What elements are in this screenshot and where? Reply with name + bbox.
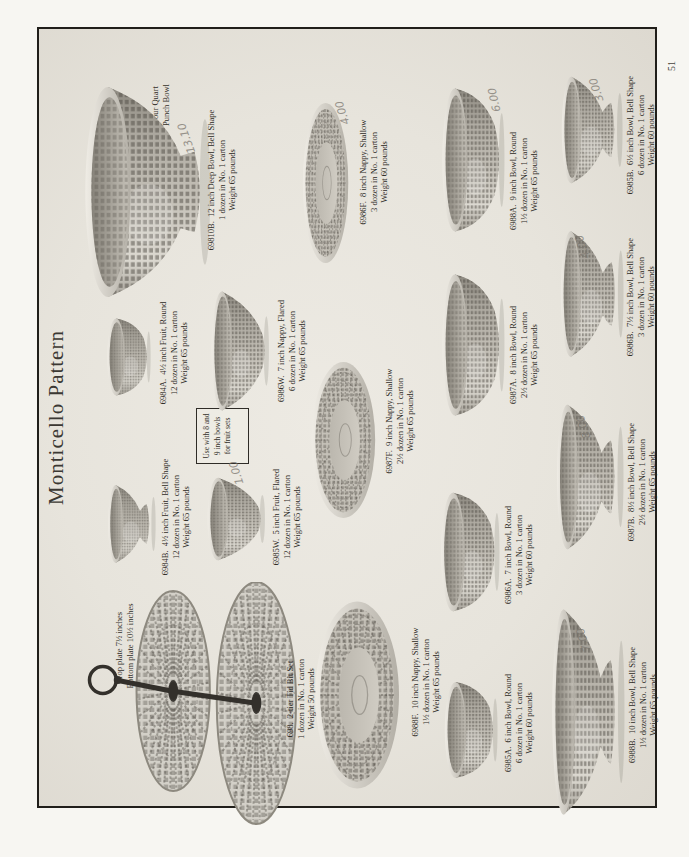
item-6986A-image bbox=[438, 489, 500, 615]
caption-line: 69810B. 12 inch Deep Bowl, Bell Shape bbox=[206, 95, 217, 265]
caption-line: 6985B. 6½ inch Bowl, Bell Shape bbox=[625, 50, 636, 220]
screenshot-canvas: Monticello Pattern 51 Top plate 7½ inche… bbox=[0, 0, 689, 857]
caption-line: 6986A. 7 inch Bowl, Round bbox=[503, 470, 514, 640]
item-6988A-caption: 6988A. 9 inch Bowl, Round1½ dozen in No.… bbox=[508, 96, 540, 266]
caption-line: Weight 65 pounds bbox=[648, 620, 659, 790]
caption-line: 6988B. 10 inch Bowl, Bell Shape bbox=[627, 620, 638, 790]
item-6984B-image bbox=[106, 483, 156, 565]
item-6987F-caption: 6987F. 9 inch Nappy, Shallow2½ dozen in … bbox=[384, 336, 416, 506]
item-6986W-caption: 6986W. 7 inch Nappy, Flared6 dozen in No… bbox=[276, 266, 308, 436]
item-6986A-caption: 6986A. 7 inch Bowl, Round3 dozen in No. … bbox=[503, 470, 535, 640]
item-6984A-caption: 6984A. 4½ inch Fruit, Round12 dozen in N… bbox=[158, 268, 190, 438]
caption-line: 1½ dozen in No. 1 carton bbox=[638, 620, 649, 790]
caption-line: 6985W. 5 inch Fruit, Flared bbox=[271, 432, 282, 602]
catalog-page: Monticello Pattern 51 Top plate 7½ inche… bbox=[0, 0, 689, 857]
item-6987F-image bbox=[309, 359, 379, 521]
caption-line: Weight 65 pounds bbox=[179, 268, 190, 438]
caption-line: 2½ dozen in No. 1 carton bbox=[519, 270, 530, 440]
caption-line: 12 dozen in No. 1 carton bbox=[169, 268, 180, 438]
item-6987B-caption: 6987B. 8½ inch Bowl, Bell Shape2½ dozen … bbox=[626, 397, 658, 567]
item-6985W-image bbox=[205, 476, 267, 562]
caption-line: 6986B. 7½ inch Bowl, Bell Shape bbox=[625, 212, 636, 382]
item-6986W-image bbox=[209, 289, 271, 413]
item-6988F-caption: 6988F. 10 inch Nappy, Shallow1½ dozen in… bbox=[410, 597, 442, 767]
item-6985A-image bbox=[442, 679, 498, 781]
caption-line: 3 dozen in No. 1 carton bbox=[636, 212, 647, 382]
caption-line: Weight 65 pounds bbox=[405, 336, 416, 506]
caption-line: 3 dozen in No. 1 carton bbox=[514, 470, 525, 640]
caption-line: Weight 60 pounds bbox=[646, 212, 657, 382]
caption-line: 6 dozen in No. 1 carton bbox=[636, 50, 647, 220]
caption-line: 2½ dozen in No. 1 carton bbox=[395, 336, 406, 506]
caption-line: 6 dozen in No. 1 carton bbox=[514, 638, 525, 808]
item-69810B-image bbox=[81, 81, 211, 303]
item-6985A-caption: 6985A. 6 inch Bowl, Round6 dozen in No. … bbox=[503, 638, 535, 808]
caption-line: Weight 65 pounds bbox=[181, 432, 192, 602]
item-6987A-caption: 6987A. 8 inch Bowl, Round2½ dozen in No.… bbox=[508, 270, 540, 440]
caption-line: Weight 65 pounds bbox=[227, 95, 238, 265]
item-6984B-caption: 6984B. 4½ inch Fruit, Bell Shape12 dozen… bbox=[160, 432, 192, 602]
caption-line: Weight 65 pounds bbox=[431, 597, 442, 767]
items-layer: 69810B. 12 inch Deep Bowl, Bell Shape1 d… bbox=[0, 0, 689, 857]
caption-line: 6986W. 7 inch Nappy, Flared bbox=[276, 266, 287, 436]
item-6984A-image bbox=[105, 316, 151, 398]
caption-line: 12 dozen in No. 1 carton bbox=[282, 432, 293, 602]
caption-line: 6988A. 9 inch Bowl, Round bbox=[508, 96, 519, 266]
item-6985B-caption: 6985B. 6½ inch Bowl, Bell Shape6 dozen i… bbox=[625, 50, 657, 220]
item-6988F-image bbox=[312, 598, 404, 792]
caption-line: 1 dozen in No. 1 carton bbox=[217, 95, 228, 265]
caption-line: 1½ dozen in No. 1 carton bbox=[421, 597, 432, 767]
caption-line: Weight 65 pounds bbox=[647, 397, 658, 567]
caption-line: 2½ dozen in No. 1 carton bbox=[637, 397, 648, 567]
caption-line: 6987B. 8½ inch Bowl, Bell Shape bbox=[626, 397, 637, 567]
caption-line: 6987F. 9 inch Nappy, Shallow bbox=[384, 336, 395, 506]
caption-line: 6984A. 4½ inch Fruit, Round bbox=[158, 268, 169, 438]
caption-line: Weight 65 pounds bbox=[529, 96, 540, 266]
item-6987A-image bbox=[439, 270, 505, 420]
caption-line: 6986F. 8 inch Nappy, Shallow bbox=[358, 87, 369, 257]
caption-line: 12 dozen in No. 1 carton bbox=[171, 432, 182, 602]
caption-line: Weight 65 pounds bbox=[297, 266, 308, 436]
caption-line: 6987A. 8 inch Bowl, Round bbox=[508, 270, 519, 440]
caption-line: Weight 60 pounds bbox=[646, 50, 657, 220]
caption-line: 1 dozen in No. 1 carton bbox=[296, 614, 307, 784]
caption-line: 6 dozen in No. 1 carton bbox=[287, 266, 298, 436]
caption-line: 6988F. 10 inch Nappy, Shallow bbox=[410, 597, 421, 767]
item-698-image bbox=[86, 582, 299, 832]
caption-line: Weight 65 pounds bbox=[529, 270, 540, 440]
caption-line: 698. 2-tier Tid Bit Set bbox=[285, 614, 296, 784]
item-6988B-caption: 6988B. 10 inch Bowl, Bell Shape1½ dozen … bbox=[627, 620, 659, 790]
item-6985W-caption: 6985W. 5 inch Fruit, Flared12 dozen in N… bbox=[271, 432, 303, 602]
caption-line: Weight 65 pounds bbox=[292, 432, 303, 602]
caption-line: 3 dozen in No. 1 carton bbox=[369, 87, 380, 257]
caption-line: Weight 60 pounds bbox=[524, 470, 535, 640]
caption-line: Weight 60 pounds bbox=[379, 87, 390, 257]
item-6986B-caption: 6986B. 7½ inch Bowl, Bell Shape3 dozen i… bbox=[625, 212, 657, 382]
caption-line: 6985A. 6 inch Bowl, Round bbox=[503, 638, 514, 808]
item-6986B-image bbox=[558, 228, 624, 360]
caption-line: Weight 60 pounds bbox=[524, 638, 535, 808]
item-69810B-caption: 69810B. 12 inch Deep Bowl, Bell Shape1 d… bbox=[206, 95, 238, 265]
item-6986F-caption: 6986F. 8 inch Nappy, Shallow3 dozen in N… bbox=[358, 87, 390, 257]
caption-line: 1½ dozen in No. 1 carton bbox=[519, 96, 530, 266]
caption-line: 6984B. 4½ inch Fruit, Bell Shape bbox=[160, 432, 171, 602]
